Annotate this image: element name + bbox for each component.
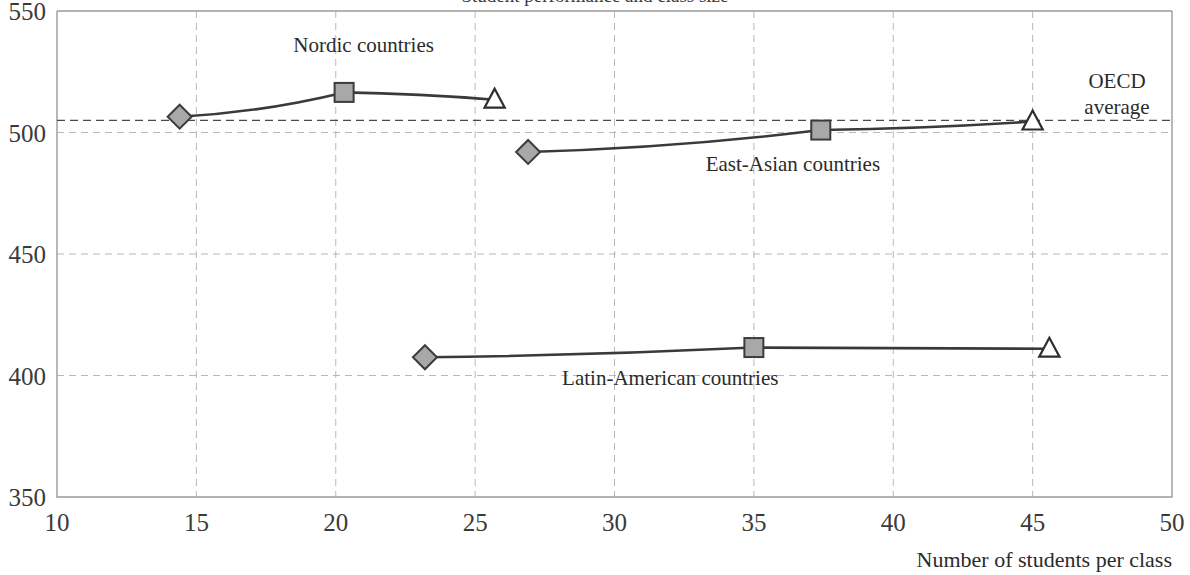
tick-labels-group: 350400450500550101520253035404550Number … [9,0,1185,572]
chart-container: Student performance and class size OECDa… [0,0,1190,575]
data-point-marker [168,105,192,129]
x-axis-tick-25: 25 [463,509,488,536]
x-axis-tick-20: 20 [323,509,348,536]
y-axis-tick-550: 550 [9,0,47,25]
y-axis-tick-500: 500 [9,120,47,147]
x-axis-title: Number of students per class [917,547,1172,572]
data-point-marker [516,140,540,164]
data-point-marker [811,121,830,140]
series-annotation: Latin-American countries [562,366,778,390]
x-axis-tick-40: 40 [881,509,906,536]
series-line [425,348,1049,358]
data-point-marker [335,83,354,102]
series-line [528,122,1033,152]
data-point-marker [413,345,437,369]
chart-plot-area: OECDaverage 3504004505005501015202530354… [0,0,1190,575]
oecd-average-label-line2: average [1084,95,1149,119]
x-axis-tick-30: 30 [602,509,627,536]
series-annotation: Nordic countries [293,33,434,57]
x-axis-tick-45: 45 [1020,509,1045,536]
data-point-marker [744,338,763,357]
series-annotation: East-Asian countries [706,152,880,176]
gridlines-group [57,11,1172,497]
oecd-average-label-line1: OECD [1088,69,1145,93]
annotations-group: Nordic countriesEast-Asian countriesLati… [293,33,880,390]
y-axis-tick-450: 450 [9,241,47,268]
data-point-marker [1039,338,1059,357]
x-axis-tick-35: 35 [741,509,766,536]
series-markers-group [168,83,1060,369]
x-axis-tick-50: 50 [1160,509,1185,536]
x-axis-tick-10: 10 [45,509,70,536]
y-axis-tick-400: 400 [9,363,47,390]
y-axis-tick-350: 350 [9,484,47,511]
x-axis-tick-15: 15 [184,509,209,536]
